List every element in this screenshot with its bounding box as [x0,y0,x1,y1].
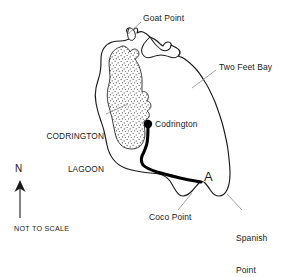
leader-line-spanish-point [227,194,242,210]
label-spanish-point: Spanish Point [236,212,267,277]
label-route-a: A [204,172,213,182]
label-coco-point: Coco Point [149,212,192,222]
codrington-dot [144,120,152,128]
label-two-feet-bay: Two Feet Bay [219,62,272,72]
label-north: N [15,164,22,174]
label-not-to-scale: NOT TO SCALE [14,224,69,234]
label-goat-point: Goat Point [143,13,184,23]
label-codrington-lagoon: CODRINGTON LAGOON [20,109,104,197]
label-codrington-lagoon-line2: LAGOON [20,164,104,175]
label-spanish-point-line1: Spanish [236,233,267,244]
label-codrington-lagoon-line1: CODRINGTON [20,131,104,142]
label-spanish-point-line2: Point [236,265,267,276]
label-codrington: Codrington [155,119,198,129]
